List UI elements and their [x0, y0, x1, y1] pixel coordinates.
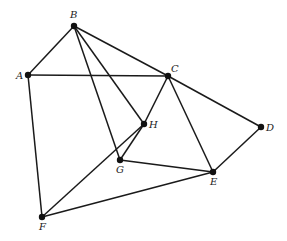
- node-a: [25, 72, 31, 78]
- edge-c-d: [168, 76, 261, 127]
- node-f: [39, 214, 45, 220]
- labels-group: ABCDEFGH: [15, 9, 274, 232]
- node-label-d: D: [265, 122, 274, 133]
- edge-c-e: [168, 76, 213, 172]
- node-label-g: G: [116, 164, 124, 175]
- edge-c-h: [144, 76, 168, 124]
- edge-a-c: [28, 75, 168, 76]
- graph-diagram: ABCDEFGH: [0, 0, 287, 241]
- node-b: [71, 23, 77, 29]
- node-label-a: A: [15, 70, 23, 81]
- node-label-e: E: [209, 176, 218, 187]
- edge-a-b: [28, 26, 74, 75]
- edge-g-e: [120, 160, 213, 172]
- node-h: [141, 121, 147, 127]
- node-e: [210, 169, 216, 175]
- node-label-f: F: [38, 221, 47, 232]
- node-label-h: H: [148, 119, 158, 130]
- edge-a-f: [28, 75, 42, 217]
- node-label-b: B: [69, 9, 77, 20]
- node-label-c: C: [171, 63, 179, 74]
- edge-d-e: [213, 127, 261, 172]
- node-d: [258, 124, 264, 130]
- node-g: [117, 157, 123, 163]
